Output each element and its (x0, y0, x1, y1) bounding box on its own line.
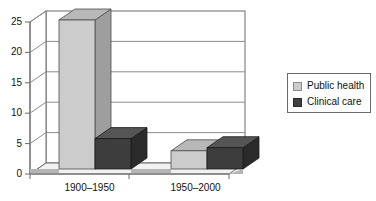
bar-front (59, 20, 95, 169)
bar-front (207, 148, 243, 169)
y-tick-label-10: 10 (0, 108, 22, 118)
y-axis-ticks (25, 22, 30, 174)
plot-left-wall (30, 11, 46, 174)
floor-strip-left (30, 169, 59, 174)
legend-item-public-health: Public health (293, 78, 370, 94)
y-tick-label-20: 20 (0, 47, 22, 57)
legend-item-clinical-care: Clinical care (293, 94, 370, 110)
x-tick-label-1950-2000: 1950–2000 (158, 182, 233, 193)
y-tick-label-25: 25 (0, 17, 22, 27)
legend: Public health Clinical care (287, 73, 371, 113)
legend-label-clinical-care: Clinical care (307, 97, 361, 107)
floor-strip-mid (131, 169, 171, 174)
legend-swatch-clinical-care (293, 98, 302, 107)
y-tick-label-15: 15 (0, 78, 22, 88)
x-axis-ticks (30, 174, 229, 179)
bar-front (171, 151, 207, 169)
y-tick-label-5: 5 (0, 139, 22, 149)
bar-chart: 25 20 15 10 5 0 1900–1950 1950–2000 Publ… (0, 0, 376, 201)
x-tick-label-1900-1950: 1900–1950 (52, 182, 127, 193)
bar-clinical-care-1900-1950 (95, 128, 147, 169)
legend-swatch-public-health (293, 82, 302, 91)
bar-front (95, 139, 131, 169)
legend-label-public-health: Public health (307, 81, 364, 91)
y-tick-label-0: 0 (0, 169, 22, 179)
